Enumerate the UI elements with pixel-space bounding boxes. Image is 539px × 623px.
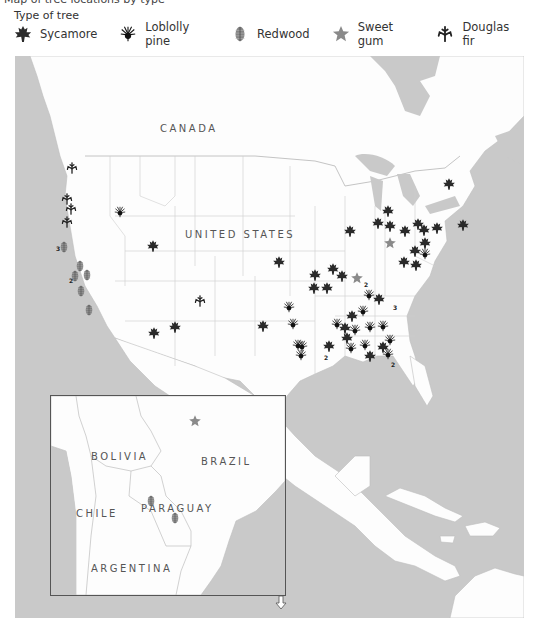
redwood-icon[interactable] (75, 285, 88, 298)
count-badge: 2 (391, 361, 395, 368)
loblolly-icon[interactable] (296, 340, 309, 353)
legend-item-sweetgum: Sweet gum (332, 20, 415, 48)
count-badge: 3 (393, 304, 397, 311)
loblolly-icon[interactable] (382, 348, 395, 361)
sycamore-icon[interactable] (257, 320, 270, 333)
expand-arrow-icon[interactable] (275, 596, 287, 610)
redwood-icon[interactable] (81, 269, 94, 282)
douglas-icon[interactable] (194, 295, 207, 308)
region-label-united-states: UNITED STATES (185, 229, 295, 240)
redwood-icon[interactable] (83, 304, 96, 317)
sweetgum-icon[interactable] (189, 415, 202, 428)
sweetgum-icon (332, 25, 358, 43)
legend-item-redwood: Redwood (231, 25, 310, 43)
legend-label: Redwood (257, 27, 310, 41)
count-badge: 2 (324, 354, 328, 361)
legend-label: Loblolly pine (145, 20, 209, 48)
count-badge: 2 (69, 277, 73, 284)
redwood-icon (231, 25, 257, 43)
sycamore-icon[interactable] (309, 269, 322, 282)
sycamore-icon[interactable] (273, 256, 286, 269)
sycamore-icon[interactable] (308, 282, 321, 295)
sycamore-icon[interactable] (443, 178, 456, 191)
cutoff-heading: Map of tree locations by type (4, 0, 165, 6)
legend-label: Douglas fir (462, 20, 517, 48)
douglas-icon[interactable] (66, 162, 79, 175)
sycamore-icon[interactable] (323, 340, 336, 353)
legend-item-sycamore: Sycamore (14, 25, 97, 43)
loblolly-icon[interactable] (283, 301, 296, 314)
region-label-brazil: BRAZIL (201, 456, 252, 467)
loblolly-icon[interactable] (349, 324, 362, 337)
sycamore-icon[interactable] (344, 225, 357, 238)
douglas-icon (436, 25, 462, 43)
redwood-icon[interactable] (145, 495, 158, 508)
sycamore-icon[interactable] (373, 293, 386, 306)
legend-item-douglas: Douglas fir (436, 20, 517, 48)
douglas-icon[interactable] (65, 203, 78, 216)
legend-item-loblolly: Loblolly pine (119, 20, 209, 48)
sycamore-icon[interactable] (457, 219, 470, 232)
legend: SycamoreLoblolly pineRedwoodSweet gumDou… (14, 24, 539, 44)
sycamore-icon[interactable] (321, 282, 334, 295)
sycamore-icon[interactable] (418, 224, 431, 237)
region-label-argentina: ARGENTINA (91, 563, 172, 574)
inset-south-america: BOLIVIABRAZILCHILEPARAGUAYARGENTINA (50, 395, 286, 596)
region-label-canada: CANADA (160, 123, 218, 134)
loblolly-icon[interactable] (287, 318, 300, 331)
sycamore-icon[interactable] (399, 225, 412, 238)
douglas-icon[interactable] (61, 216, 74, 229)
sycamore-icon[interactable] (169, 321, 182, 334)
sycamore-icon[interactable] (327, 263, 340, 276)
loblolly-icon[interactable] (331, 318, 344, 331)
sycamore-icon[interactable] (410, 259, 423, 272)
redwood-icon[interactable] (169, 512, 182, 525)
loblolly-icon[interactable] (114, 206, 127, 219)
loblolly-icon[interactable] (364, 321, 377, 334)
loblolly-icon (119, 25, 145, 43)
region-label-chile: CHILE (76, 508, 118, 519)
sycamore-icon[interactable] (384, 220, 397, 233)
sycamore-icon[interactable] (147, 240, 160, 253)
loblolly-icon[interactable] (345, 342, 358, 355)
sycamore-icon[interactable] (148, 327, 161, 340)
loblolly-icon[interactable] (377, 320, 390, 333)
region-label-bolivia: BOLIVIA (91, 451, 148, 462)
sycamore-icon (14, 25, 40, 43)
count-badge: 2 (364, 281, 368, 288)
sweetgum-icon[interactable] (384, 237, 397, 250)
legend-label: Sycamore (40, 27, 97, 41)
legend-title: Type of tree (14, 9, 79, 22)
count-badge: 3 (56, 245, 60, 252)
sycamore-icon[interactable] (364, 350, 377, 363)
sweetgum-icon[interactable] (351, 272, 364, 285)
legend-label: Sweet gum (358, 20, 415, 48)
sycamore-icon[interactable] (431, 222, 444, 235)
